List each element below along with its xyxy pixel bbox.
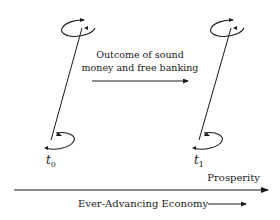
axis-line-t1 xyxy=(199,28,231,140)
rotation-top-t1-icon xyxy=(211,18,244,36)
economy-caption-text: Ever-Advancing Economy xyxy=(78,198,208,209)
transition-label-line1: Outcome of sound xyxy=(96,49,184,60)
transition-arrow: Outcome of sound money and free banking xyxy=(82,49,199,81)
rotation-bottom-t1-icon xyxy=(192,132,222,150)
label-t0: t0 xyxy=(46,153,56,169)
economy-caption: Ever-Advancing Economy xyxy=(78,198,246,209)
spin-axis-t0: t0 xyxy=(44,18,95,169)
rotation-bottom-t0-icon xyxy=(44,132,74,150)
axis-line-t0 xyxy=(51,28,82,140)
label-t1: t1 xyxy=(194,153,204,169)
transition-label-line2: money and free banking xyxy=(82,62,199,73)
prosperity-label: Prosperity xyxy=(207,172,260,183)
rotation-top-t0-icon xyxy=(62,18,96,36)
spin-axis-t1: t1 xyxy=(192,18,244,169)
diagram-canvas: t0 t1 Outcome of sound money and free ba… xyxy=(0,0,280,220)
prosperity-axis: Prosperity xyxy=(14,172,268,190)
